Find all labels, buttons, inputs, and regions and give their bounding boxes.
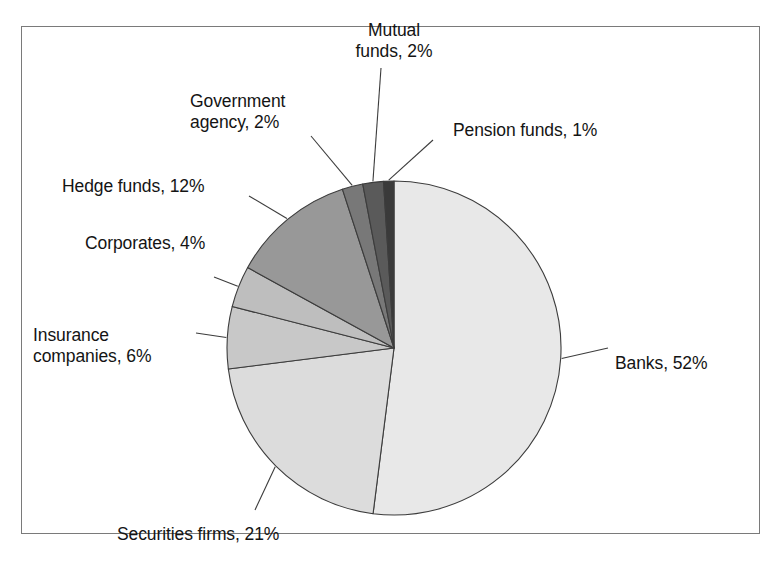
pie-label-line-government-agency-2: agency, 2% [190, 112, 285, 133]
pie-label-mutual-funds: Mutualfunds, 2% [334, 20, 454, 62]
pie-label-securities-firms: Securities firms, 21% [117, 524, 279, 545]
pie-chart-graphic [0, 0, 774, 572]
pie-label-corporates: Corporates, 4% [85, 233, 205, 254]
pie-label-line-insurance-companies-1: Insurance [33, 325, 151, 346]
pie-label-government-agency: Governmentagency, 2% [190, 91, 285, 133]
pie-slice-securities-firms [228, 348, 394, 514]
pie-slice-banks [373, 181, 561, 515]
leader-line-securities-firms [255, 467, 275, 510]
pie-label-line-mutual-funds-2: funds, 2% [334, 41, 454, 62]
pie-label-banks: Banks, 52% [615, 353, 707, 374]
leader-line-corporates [214, 277, 238, 286]
pie-label-line-insurance-companies-2: companies, 6% [33, 346, 151, 367]
pie-label-hedge-funds: Hedge funds, 12% [62, 176, 204, 197]
pie-label-insurance-companies: Insurancecompanies, 6% [33, 325, 151, 367]
pie-label-pension-funds: Pension funds, 1% [453, 120, 597, 141]
leader-line-government-agency [311, 136, 352, 185]
leader-line-insurance-companies [196, 333, 226, 337]
pie-label-line-mutual-funds-1: Mutual [334, 20, 454, 41]
pie-chart-figure: Banks, 52%Securities firms, 21%Insurance… [0, 0, 774, 572]
leader-line-pension-funds [389, 140, 433, 180]
leader-line-mutual-funds [373, 68, 381, 181]
pie-label-line-government-agency-1: Government [190, 91, 285, 112]
pie-slices-group [227, 181, 561, 515]
leader-line-banks [562, 348, 608, 359]
leader-line-hedge-funds [249, 196, 287, 219]
